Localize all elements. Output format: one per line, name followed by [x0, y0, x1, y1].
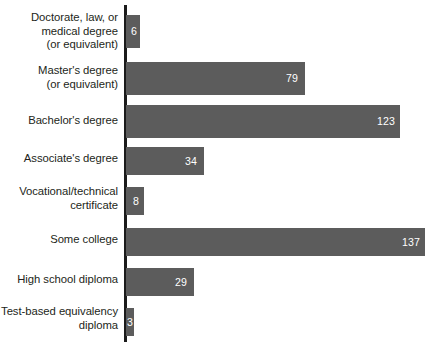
category-label-line: diploma: [0, 319, 118, 333]
category-label-line: High school diploma: [0, 273, 118, 287]
category-label-line: certificate: [0, 199, 118, 213]
category-label-line: Some college: [0, 233, 118, 247]
bar[interactable]: 8: [126, 187, 144, 215]
category-label: Some college: [0, 233, 118, 247]
category-label-line: Vocational/technical: [0, 185, 118, 199]
category-label-line: (or equivalent): [0, 78, 118, 92]
bar[interactable]: 29: [126, 268, 194, 296]
category-label: Bachelor's degree: [0, 114, 118, 128]
category-label: Test-based equivalency diploma: [0, 305, 118, 332]
bar[interactable]: 6: [126, 15, 140, 48]
category-label-line: Master's degree: [0, 64, 118, 78]
category-label-line: medical degree: [0, 25, 118, 39]
category-label-line: Bachelor's degree: [0, 114, 118, 128]
category-label-line: Test-based equivalency: [0, 305, 118, 319]
bar-value-label: 123: [377, 116, 395, 127]
category-label-line: Associate's degree: [0, 152, 118, 166]
bar-value-label: 6: [131, 26, 137, 37]
bar[interactable]: 34: [126, 147, 204, 175]
bar[interactable]: 123: [126, 105, 400, 138]
bar-value-label: 34: [185, 156, 197, 167]
bar-chart: Doctorate, law, or medical degree (or eq…: [0, 0, 440, 357]
bar-value-label: 29: [175, 277, 187, 288]
bar-value-label: 3: [127, 317, 133, 328]
bar[interactable]: 79: [126, 62, 305, 95]
category-label: Vocational/technical certificate: [0, 185, 118, 212]
bar-value-label: 8: [133, 196, 139, 207]
category-label-line: Doctorate, law, or: [0, 11, 118, 25]
category-label: Doctorate, law, or medical degree (or eq…: [0, 11, 118, 52]
category-label-line: (or equivalent): [0, 38, 118, 52]
category-label: High school diploma: [0, 273, 118, 287]
category-label: Master's degree (or equivalent): [0, 64, 118, 91]
bar-value-label: 137: [402, 237, 420, 248]
bar-value-label: 79: [286, 73, 298, 84]
plot-area: Doctorate, law, or medical degree (or eq…: [0, 0, 440, 357]
bar[interactable]: 137: [126, 228, 425, 256]
category-label: Associate's degree: [0, 152, 118, 166]
bar[interactable]: 3: [126, 308, 134, 336]
